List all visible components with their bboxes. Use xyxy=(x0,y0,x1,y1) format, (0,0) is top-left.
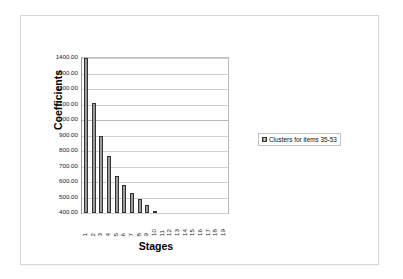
bar xyxy=(130,193,134,213)
bar-slot xyxy=(153,58,157,213)
y-tick-label: 1300.00 xyxy=(56,70,78,76)
x-tick-label: 4 xyxy=(105,233,111,236)
x-tick-label: 16 xyxy=(197,229,203,236)
bar xyxy=(92,103,96,213)
bar xyxy=(115,176,119,213)
y-tick-label: 500.00 xyxy=(59,194,78,200)
y-tick-label: 1200.00 xyxy=(56,85,78,91)
bar-slot xyxy=(145,58,149,213)
x-tick-label: 15 xyxy=(189,229,195,236)
x-tick-label: 7 xyxy=(128,233,134,236)
bar-slot xyxy=(191,58,195,213)
x-tick-label: 10 xyxy=(151,229,157,236)
bar-slot xyxy=(184,58,188,213)
legend-swatch-icon xyxy=(262,137,267,142)
bar-slot xyxy=(115,58,119,213)
bar xyxy=(84,58,88,213)
y-tick-label: 900.00 xyxy=(59,132,78,138)
x-tick-label: 13 xyxy=(174,229,180,236)
bar xyxy=(145,205,149,213)
x-tick-label: 19 xyxy=(220,229,226,236)
bar-slot xyxy=(84,58,88,213)
bar-slot xyxy=(176,58,180,213)
bar-slot xyxy=(99,58,103,213)
x-tick-label: 2 xyxy=(90,233,96,236)
y-tick-label: 1400.00 xyxy=(56,54,78,60)
bar-slot xyxy=(130,58,134,213)
bar-slot xyxy=(207,58,211,213)
bar xyxy=(153,211,157,213)
x-tick-label: 17 xyxy=(205,229,211,236)
x-tick-label: 11 xyxy=(159,230,165,236)
y-tick-label: 600.00 xyxy=(59,178,78,184)
y-tick-label: 700.00 xyxy=(59,163,78,169)
bar-slot xyxy=(122,58,126,213)
chart-legend: Clusters for items 35-53 xyxy=(258,133,341,146)
bar xyxy=(122,185,126,213)
bar-series xyxy=(82,58,228,213)
bar xyxy=(99,136,103,213)
chart-frame: Coefficients 1400.001300.001200.001100.0… xyxy=(20,15,379,265)
y-tick-label: 1000.00 xyxy=(56,116,78,122)
x-tick-label: 14 xyxy=(182,229,188,236)
bar-slot xyxy=(199,58,203,213)
x-tick-label: 9 xyxy=(143,233,149,236)
bar xyxy=(107,156,111,213)
x-tick-label: 12 xyxy=(166,229,172,236)
y-tick-label: 400.00 xyxy=(59,209,78,215)
x-axis-title: Stages xyxy=(61,240,251,252)
x-tick-label: 6 xyxy=(120,233,126,236)
x-tick-label: 8 xyxy=(136,233,142,236)
y-axis-tick-labels: 1400.001300.001200.001100.001000.00900.0… xyxy=(21,57,78,212)
legend-label: Clusters for items 35-53 xyxy=(269,136,337,143)
y-tick-label: 800.00 xyxy=(59,147,78,153)
bar-slot xyxy=(161,58,165,213)
bar-slot xyxy=(138,58,142,213)
x-tick-label: 18 xyxy=(212,229,218,236)
bar-slot xyxy=(107,58,111,213)
bar xyxy=(138,199,142,213)
bar-slot xyxy=(222,58,226,213)
bar-slot xyxy=(168,58,172,213)
x-tick-label: 5 xyxy=(113,233,119,236)
x-tick-label: 3 xyxy=(97,233,103,236)
y-tick-label: 1100.00 xyxy=(56,101,78,107)
bar-slot xyxy=(92,58,96,213)
x-axis-tick-labels: 12345678910111213141516171819 xyxy=(81,214,227,236)
bar-slot xyxy=(214,58,218,213)
plot-area xyxy=(81,57,229,214)
x-tick-label: 1 xyxy=(82,233,88,236)
